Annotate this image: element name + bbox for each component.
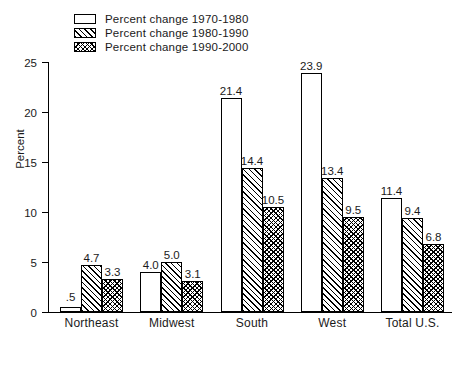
y-axis-tick-label: 20 [24, 107, 37, 119]
legend-swatch-plain-icon [74, 14, 96, 24]
legend-item-series-1: Percent change 1970-1980 [74, 13, 249, 25]
bar-value-label: .5 [66, 291, 76, 303]
legend-label-series-1: Percent change 1970-1980 [105, 14, 249, 25]
bar-value-label: 4.0 [143, 259, 159, 271]
bar: 9.5 [343, 217, 364, 312]
y-axis-tick-label: 10 [24, 207, 37, 219]
y-axis-tick: 15 [42, 162, 48, 163]
y-axis-tick: 10 [42, 212, 48, 213]
y-axis-tick: 25 [42, 62, 48, 63]
bar-chart: Percent change 1970-1980 Percent change … [0, 0, 473, 366]
bar-value-label: 11.4 [381, 185, 403, 197]
bar-group: 11.49.46.8Total U.S. [381, 62, 444, 312]
bar-value-label: 3.3 [105, 266, 121, 278]
legend-item-series-3: Percent change 1990-2000 [74, 41, 249, 53]
x-axis-category-label: West [318, 316, 346, 330]
bar-value-label: 14.4 [241, 155, 263, 167]
bar-value-label: 9.5 [345, 204, 361, 216]
bar: 9.4 [402, 218, 423, 312]
bar: 10.5 [263, 207, 284, 312]
bar: 21.4 [221, 98, 242, 312]
legend-swatch-diagonal-hatch-icon [74, 28, 96, 38]
bar: 23.9 [301, 73, 322, 312]
y-axis-line [48, 62, 49, 312]
bar-value-label: 10.5 [262, 194, 284, 206]
bar-group: 23.913.49.5West [301, 62, 364, 312]
bar: 14.4 [242, 168, 263, 312]
x-axis-category-label: Northeast [65, 316, 119, 330]
y-axis-tick: 5 [42, 262, 48, 263]
x-axis-category-label: Total U.S. [385, 316, 439, 330]
bar: 4.7 [81, 265, 102, 312]
y-axis-tick-label: 15 [24, 157, 37, 169]
bar: 5.0 [161, 262, 182, 312]
bar-value-label: 5.0 [164, 249, 180, 261]
bar: 6.8 [423, 244, 444, 312]
bar: 3.3 [102, 279, 123, 312]
y-axis-title: Percent [14, 115, 28, 185]
y-axis-tick-label: 25 [24, 57, 37, 69]
bar-value-label: 6.8 [426, 231, 442, 243]
bar-value-label: 9.4 [405, 205, 421, 217]
bar-value-label: 13.4 [321, 165, 343, 177]
bar: 3.1 [182, 281, 203, 312]
x-axis-line [48, 312, 452, 313]
plot-area: 0510152025 .54.73.3Northeast4.05.03.1Mid… [48, 62, 458, 312]
legend-label-series-3: Percent change 1990-2000 [105, 42, 249, 53]
y-axis-tick-label: 5 [31, 257, 37, 269]
y-axis-tick: 20 [42, 112, 48, 113]
bar-value-label: 21.4 [220, 85, 242, 97]
legend-swatch-crosshatch-icon [74, 42, 96, 52]
y-axis-tick-label: 0 [31, 307, 37, 319]
x-axis-category-label: South [236, 316, 268, 330]
bar: 13.4 [322, 178, 343, 312]
bar-value-label: 23.9 [300, 60, 322, 72]
bar-group: 21.414.410.5South [221, 62, 284, 312]
legend-item-series-2: Percent change 1980-1990 [74, 27, 249, 39]
bar: 11.4 [381, 198, 402, 312]
bar-group: 4.05.03.1Midwest [140, 62, 203, 312]
bar-value-label: 3.1 [185, 268, 201, 280]
bar-value-label: 4.7 [84, 252, 100, 264]
chart-legend: Percent change 1970-1980 Percent change … [74, 13, 249, 53]
bar: 4.0 [140, 272, 161, 312]
legend-label-series-2: Percent change 1980-1990 [105, 28, 249, 39]
bar-group: .54.73.3Northeast [60, 62, 123, 312]
bar: .5 [60, 307, 81, 312]
x-axis-category-label: Midwest [149, 316, 194, 330]
y-axis-tick: 0 [42, 312, 48, 313]
